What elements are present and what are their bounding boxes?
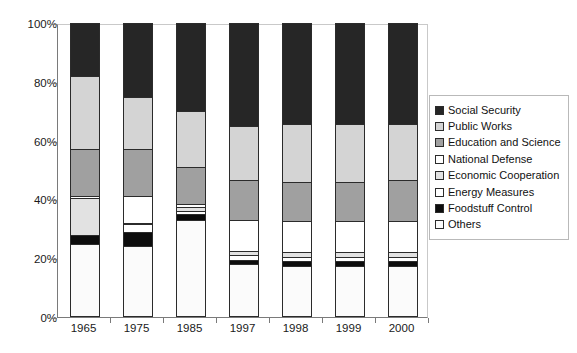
bar-segment-energy-measures[interactable] <box>123 224 153 231</box>
x-axis-tick-label: 1975 <box>107 322 167 334</box>
bar-segment-national-defense[interactable] <box>282 221 312 252</box>
bar-segment-education-and-science[interactable] <box>335 182 365 222</box>
legend-swatch-icon <box>435 106 444 115</box>
bar-segment-energy-measures[interactable] <box>388 257 418 261</box>
bar-segment-social-security[interactable] <box>229 23 259 126</box>
bar-segment-public-works[interactable] <box>282 124 312 181</box>
bar-segment-public-works[interactable] <box>229 126 259 180</box>
bar-segment-economic-cooperation[interactable] <box>176 207 206 211</box>
bar-segment-education-and-science[interactable] <box>229 180 259 220</box>
legend-item-label: Foodstuff Control <box>448 203 532 214</box>
bar-1965[interactable] <box>70 25 100 317</box>
bar-segment-social-security[interactable] <box>282 23 312 124</box>
x-axis-tick-label: 1997 <box>213 322 273 334</box>
bar-segment-public-works[interactable] <box>335 124 365 181</box>
plot-area <box>57 24 428 318</box>
bar-segment-national-defense[interactable] <box>176 204 206 207</box>
y-axis: 0%20%40%60%80%100% <box>0 0 57 353</box>
legend-item-education-and-science[interactable]: Education and Science <box>435 135 564 151</box>
bar-segment-social-security[interactable] <box>335 23 365 124</box>
bar-1999[interactable] <box>335 25 365 317</box>
bar-segment-national-defense[interactable] <box>70 196 100 198</box>
legend-item-national-defense[interactable]: National Defense <box>435 151 564 167</box>
x-axis-tick-label: 1998 <box>266 322 326 334</box>
bar-segment-foodstuff-control[interactable] <box>282 261 312 265</box>
bar-segment-foodstuff-control[interactable] <box>229 260 259 264</box>
bar-segment-social-security[interactable] <box>70 23 100 76</box>
legend-item-social-security[interactable]: Social Security <box>435 102 564 118</box>
bar-segment-economic-cooperation[interactable] <box>70 198 100 235</box>
bar-segment-others[interactable] <box>176 220 206 317</box>
bar-segment-public-works[interactable] <box>388 124 418 180</box>
legend-swatch-icon <box>435 138 444 147</box>
bar-segment-foodstuff-control[interactable] <box>123 232 153 247</box>
bar-segment-others[interactable] <box>123 246 153 317</box>
bar-segment-others[interactable] <box>388 266 418 317</box>
legend-swatch-icon <box>435 204 444 213</box>
bar-segment-others[interactable] <box>282 266 312 317</box>
legend-item-others[interactable]: Others <box>435 217 564 233</box>
legend-item-public-works[interactable]: Public Works <box>435 118 564 134</box>
bar-segment-social-security[interactable] <box>123 23 153 97</box>
legend-swatch-icon <box>435 188 444 197</box>
bar-segment-foodstuff-control[interactable] <box>176 214 206 220</box>
bar-segment-others[interactable] <box>229 264 259 317</box>
bar-segment-social-security[interactable] <box>176 23 206 111</box>
legend-swatch-icon <box>435 220 444 229</box>
bar-segment-public-works[interactable] <box>176 111 206 167</box>
bar-segment-foodstuff-control[interactable] <box>70 235 100 244</box>
bar-segment-education-and-science[interactable] <box>176 167 206 204</box>
bar-segment-foodstuff-control[interactable] <box>388 261 418 265</box>
bar-segment-education-and-science[interactable] <box>282 182 312 222</box>
legend-item-label: Energy Measures <box>448 187 534 198</box>
legend-swatch-icon <box>435 122 444 131</box>
bar-segment-social-security[interactable] <box>388 23 418 124</box>
bar-segment-national-defense[interactable] <box>229 220 259 251</box>
stacked-bar-chart: 0%20%40%60%80%100% Social SecurityPublic… <box>0 0 577 353</box>
legend-item-label: Others <box>448 219 481 230</box>
legend-swatch-icon <box>435 155 444 164</box>
x-axis-tick-mark <box>428 318 429 323</box>
legend-item-label: Social Security <box>448 105 521 116</box>
bar-segment-national-defense[interactable] <box>388 221 418 252</box>
y-axis-tick-mark <box>51 318 57 319</box>
bar-segment-economic-cooperation[interactable] <box>388 252 418 256</box>
bar-2000[interactable] <box>388 25 418 317</box>
bar-segment-others[interactable] <box>70 244 100 318</box>
bar-segment-economic-cooperation[interactable] <box>123 223 153 225</box>
legend-item-foodstuff-control[interactable]: Foodstuff Control <box>435 200 564 216</box>
bar-segment-energy-measures[interactable] <box>335 257 365 261</box>
bar-segment-education-and-science[interactable] <box>123 149 153 196</box>
bar-segment-education-and-science[interactable] <box>70 149 100 196</box>
chart-legend: Social SecurityPublic WorksEducation and… <box>429 95 569 240</box>
bar-segment-national-defense[interactable] <box>335 221 365 252</box>
bar-segment-energy-measures[interactable] <box>176 211 206 214</box>
legend-swatch-icon <box>435 171 444 180</box>
legend-item-energy-measures[interactable]: Energy Measures <box>435 184 564 200</box>
bar-segment-public-works[interactable] <box>70 76 100 150</box>
bar-1975[interactable] <box>123 25 153 317</box>
legend-item-label: Education and Science <box>448 137 561 148</box>
legend-item-label: Economic Cooperation <box>448 170 559 181</box>
bar-1985[interactable] <box>176 25 206 317</box>
bar-segment-others[interactable] <box>335 266 365 317</box>
bar-segment-energy-measures[interactable] <box>229 255 259 259</box>
bar-segment-education-and-science[interactable] <box>388 180 418 221</box>
bar-segment-national-defense[interactable] <box>123 196 153 222</box>
bar-segment-energy-measures[interactable] <box>282 257 312 261</box>
bar-segment-foodstuff-control[interactable] <box>335 261 365 265</box>
bar-1997[interactable] <box>229 25 259 317</box>
x-axis-tick-label: 2000 <box>372 322 432 334</box>
bar-segment-economic-cooperation[interactable] <box>229 251 259 255</box>
legend-item-label: Public Works <box>448 121 512 132</box>
bar-segment-public-works[interactable] <box>123 97 153 150</box>
legend-item-economic-cooperation[interactable]: Economic Cooperation <box>435 168 564 184</box>
x-axis-tick-label: 1965 <box>54 322 114 334</box>
x-axis-tick-label: 1999 <box>319 322 379 334</box>
bar-1998[interactable] <box>282 25 312 317</box>
x-axis-tick-label: 1985 <box>160 322 220 334</box>
legend-item-label: National Defense <box>448 154 532 165</box>
bar-segment-economic-cooperation[interactable] <box>282 252 312 256</box>
bar-segment-economic-cooperation[interactable] <box>335 252 365 256</box>
